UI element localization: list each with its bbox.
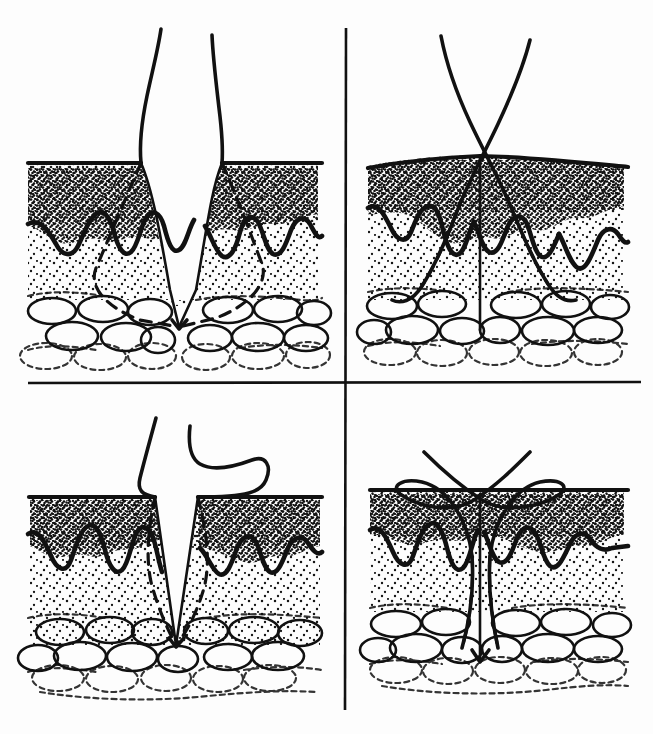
figure-canvas [0,0,653,734]
panel-bottom-right [360,452,631,693]
suture-thread-left [139,418,156,497]
panel-top-right [357,36,629,366]
panel-top-left [20,29,331,370]
divider-horizontal [28,382,641,383]
suture-thread-right [212,35,222,163]
panel-bottom-left [18,418,326,699]
suture-thread-right-hook [189,426,268,497]
suture-thread-left [140,29,161,163]
suture-figure: Suture placement cross-sections of skin … [0,0,653,734]
subcutaneous-fat-layer [360,604,631,693]
divider-vertical [345,28,346,710]
